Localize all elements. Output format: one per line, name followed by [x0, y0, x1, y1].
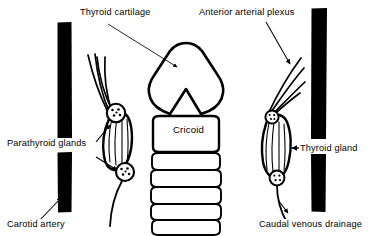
tracheal-rings — [151, 153, 221, 235]
leader-line-parathyroid-lower — [96, 157, 117, 170]
thyroid-lobe-inferior-nodule — [270, 171, 285, 186]
parathyroid-gland-upper — [107, 104, 125, 122]
parathyroid-gland-lower — [116, 163, 134, 181]
label-thyroid-gland: Thyroid gland — [299, 143, 359, 154]
label-caudal-venous-drainage: Caudal venous drainage — [258, 219, 363, 230]
label-thyroid-cartilage: Thyroid cartilage — [79, 7, 151, 18]
right-carotid-artery-bar — [311, 8, 327, 212]
label-carotid-artery: Carotid artery — [6, 219, 66, 230]
label-parathyroid-glands: Parathyroid glands — [6, 138, 87, 149]
left-carotid-artery-bar — [58, 22, 73, 213]
thyroid-cartilage — [149, 43, 224, 114]
thyroid-anatomy-figure: Thyroid cartilage Anterior arterial plex… — [0, 0, 373, 236]
leader-line-thyroid-cartilage — [108, 24, 177, 67]
anatomy-illustration — [0, 0, 373, 236]
right-thyroid-lobe-group — [262, 58, 305, 223]
leader-line-anterior-arterial-plexus — [266, 22, 290, 64]
label-anterior-arterial-plexus: Anterior arterial plexus — [198, 7, 296, 18]
label-cricoid: Cricoid — [172, 124, 205, 135]
parathyroid-gland-right — [265, 110, 278, 123]
left-thyroid-lobe-group — [88, 54, 134, 226]
